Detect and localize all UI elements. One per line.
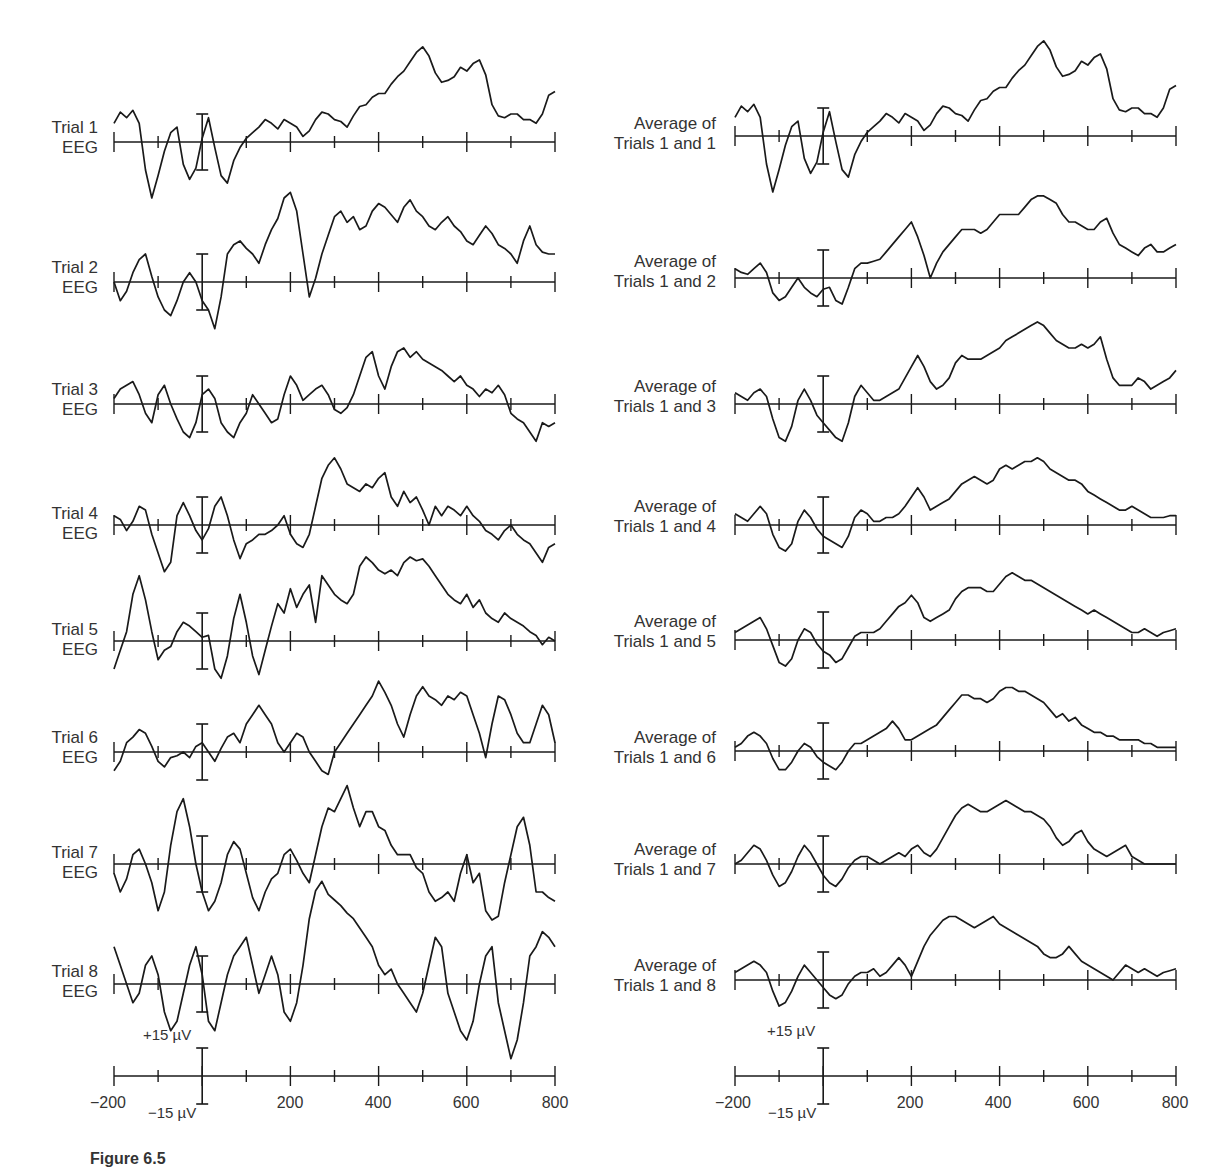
- eeg-trace-trial-2: [114, 192, 555, 328]
- eeg-trace-trial-5: [114, 557, 555, 678]
- scale-bottom-label-left: −15 µV: [148, 1104, 196, 1121]
- trace-label-left-5: Trial 5EEG: [51, 620, 98, 660]
- scale-top-label-right: +15 µV: [767, 1022, 815, 1039]
- trace-label-left-8: Trial 8EEG: [51, 962, 98, 1002]
- x-tick-label-left-200: 200: [277, 1094, 304, 1112]
- x-tick-label-right-200: 200: [897, 1094, 924, 1112]
- trace-label-right-6: Average ofTrials 1 and 6: [614, 728, 716, 768]
- scale-top-label-left: +15 µV: [143, 1026, 191, 1043]
- x-tick-label-left-400: 400: [365, 1094, 392, 1112]
- trace-label-left-2: Trial 2EEG: [51, 258, 98, 298]
- trace-label-right-3: Average ofTrials 1 and 3: [614, 377, 716, 417]
- x-tick-label-right-400: 400: [985, 1094, 1012, 1112]
- x-tick-label-left-neg200: −200: [90, 1094, 126, 1112]
- trace-label-left-7: Trial 7EEG: [51, 843, 98, 883]
- x-tick-label-right-600: 600: [1073, 1094, 1100, 1112]
- trace-label-left-1: Trial 1EEG: [51, 118, 98, 158]
- trace-label-right-5: Average ofTrials 1 and 5: [614, 612, 716, 652]
- eeg-trace-average-7: [735, 801, 1176, 887]
- x-tick-label-right-neg200: −200: [715, 1094, 751, 1112]
- eeg-trace-average-6: [735, 688, 1176, 770]
- trace-label-left-6: Trial 6EEG: [51, 728, 98, 768]
- eeg-trace-average-5: [735, 573, 1176, 666]
- eeg-trace-average-8: [735, 917, 1176, 1007]
- trace-label-left-4: Trial 4EEG: [51, 504, 98, 544]
- eeg-trace-average-2: [735, 196, 1176, 304]
- scale-bottom-label-right: −15 µV: [768, 1104, 816, 1121]
- x-tick-label-right-800: 800: [1162, 1094, 1189, 1112]
- x-tick-label-left-800: 800: [542, 1094, 569, 1112]
- eeg-trace-average-1: [735, 41, 1176, 192]
- eeg-trace-trial-3: [114, 348, 555, 441]
- eeg-trace-trial-1: [114, 47, 555, 198]
- figure-caption: Figure 6.5: [90, 1150, 166, 1168]
- trace-label-right-1: Average ofTrials 1 and 1: [614, 114, 716, 154]
- trace-label-right-2: Average ofTrials 1 and 2: [614, 252, 716, 292]
- eeg-trace-average-4: [735, 458, 1176, 551]
- eeg-trace-trial-6: [114, 681, 555, 774]
- trace-label-right-7: Average ofTrials 1 and 7: [614, 840, 716, 880]
- x-tick-label-left-600: 600: [453, 1094, 480, 1112]
- trace-label-left-3: Trial 3EEG: [51, 380, 98, 420]
- eeg-trace-average-3: [735, 322, 1176, 441]
- trace-label-right-4: Average ofTrials 1 and 4: [614, 497, 716, 537]
- eeg-trace-trial-4: [114, 458, 555, 572]
- trace-label-right-8: Average ofTrials 1 and 8: [614, 956, 716, 996]
